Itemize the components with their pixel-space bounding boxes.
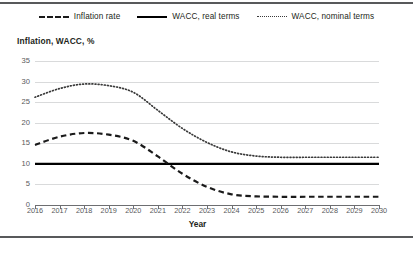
- x-tick-label-2025: 2025: [243, 206, 269, 216]
- y-tick-label-30: 30: [22, 78, 30, 86]
- x-axis-title-text: Year: [189, 219, 207, 229]
- x-tick-label-2022: 2022: [169, 206, 195, 216]
- y-tick-label-15: 15: [22, 139, 30, 147]
- y-tick-label-20: 20: [22, 119, 30, 127]
- bottom-divider-rule: [0, 236, 413, 238]
- line-wacc-nominal: [35, 84, 379, 157]
- x-tick-label-2026: 2026: [268, 206, 294, 216]
- x-tick-label-2027: 2027: [292, 206, 318, 216]
- y-tick-label-10: 10: [22, 160, 30, 168]
- y-tick-label-25: 25: [22, 98, 30, 106]
- solid-line-key-icon: [137, 12, 167, 21]
- x-tick-label-2021: 2021: [145, 206, 171, 216]
- x-axis-title: Year: [0, 219, 413, 229]
- x-tick-label-2030: 2030: [366, 206, 392, 216]
- x-tick-label-2020: 2020: [120, 206, 146, 216]
- x-tick-label-2029: 2029: [341, 206, 367, 216]
- y-tick-label-35: 35: [22, 57, 30, 65]
- dashed-line-key-icon: [39, 12, 69, 21]
- legend-item-inflation-rate: Inflation rate: [39, 12, 120, 21]
- series-lines: [35, 61, 379, 205]
- chart-page: Inflation rate WACC, real terms WACC, no…: [0, 0, 413, 255]
- legend-label-inflation-rate: Inflation rate: [74, 12, 120, 21]
- legend-item-wacc-real: WACC, real terms: [137, 12, 239, 21]
- x-tick-label-2024: 2024: [219, 206, 245, 216]
- x-tick-label-2019: 2019: [96, 206, 122, 216]
- x-tick-label-2017: 2017: [47, 206, 73, 216]
- dotted-line-key-icon: [257, 12, 287, 21]
- x-tick-label-2018: 2018: [71, 206, 97, 216]
- y-tick-label-5: 5: [26, 180, 30, 188]
- plot-area: [35, 61, 379, 205]
- x-tick-label-2023: 2023: [194, 206, 220, 216]
- top-divider-rule: [0, 2, 413, 4]
- legend-label-wacc-nominal: WACC, nominal terms: [292, 12, 375, 21]
- chart-legend: Inflation rate WACC, real terms WACC, no…: [0, 8, 413, 24]
- x-tick-label-2028: 2028: [317, 206, 343, 216]
- legend-label-wacc-real: WACC, real terms: [172, 12, 239, 21]
- x-tick-label-2016: 2016: [22, 206, 48, 216]
- x-axis-tick-labels: 2016201720182019202020212022202320242025…: [0, 206, 413, 218]
- legend-item-wacc-nominal: WACC, nominal terms: [257, 12, 375, 21]
- y-axis-tick-labels: 35302520151050: [0, 0, 35, 215]
